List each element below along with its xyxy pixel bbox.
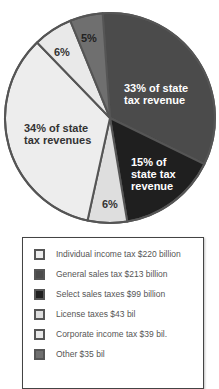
legend-label: Other $35 bil	[56, 349, 105, 359]
legend-item-license-taxes: License taxes $43 bil	[34, 307, 135, 321]
legend-item-general-sales-tax: General sales tax $213 billion	[34, 267, 168, 281]
legend: Individual income tax $220 billion Gener…	[22, 237, 204, 389]
slice-label: 15% of state tax revenue	[131, 156, 176, 192]
legend-item-select-sales-taxes: Select sales taxes $99 billion	[34, 287, 165, 301]
legend-item-other: Other $35 bil	[34, 347, 105, 361]
legend-label: License taxes $43 bil	[56, 309, 135, 319]
legend-swatch-icon	[34, 349, 45, 360]
slice-label: 33% of state tax revenue	[124, 82, 188, 106]
legend-label: Select sales taxes $99 billion	[56, 289, 165, 299]
legend-label: General sales tax $213 billion	[56, 269, 168, 279]
slice-label: 6%	[102, 198, 118, 210]
legend-item-individual-income-tax: Individual income tax $220 billion	[34, 247, 181, 261]
legend-label: Corporate income tax $39 bil.	[56, 329, 167, 339]
legend-swatch-icon	[34, 289, 45, 300]
legend-swatch-icon	[34, 309, 45, 320]
slice-label: 34% of state tax revenues	[24, 122, 91, 146]
legend-swatch-icon	[34, 269, 45, 280]
slice-label: 5%	[81, 32, 97, 44]
legend-swatch-icon	[34, 249, 45, 260]
legend-swatch-icon	[34, 329, 45, 340]
legend-label: Individual income tax $220 billion	[56, 249, 181, 259]
slice-label: 6%	[54, 46, 70, 58]
legend-item-corporate-income-tax: Corporate income tax $39 bil.	[34, 327, 167, 341]
